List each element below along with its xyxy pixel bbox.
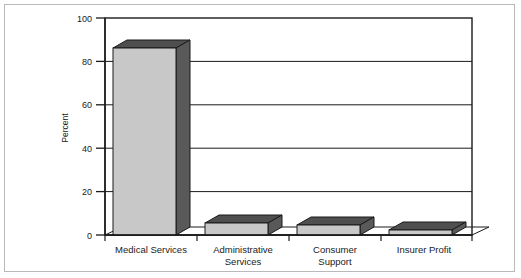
chart-svg: 100 80 60 40 20 0 Percent bbox=[0, 0, 521, 278]
bar-chart: 100 80 60 40 20 0 Percent bbox=[0, 0, 521, 278]
x-category-labels: Medical Services Administrative Services… bbox=[115, 244, 451, 267]
y-tick-label-100: 100 bbox=[77, 14, 92, 24]
cat-label-consumer-support-line1: Consumer bbox=[313, 244, 357, 255]
y-axis-title-text: Percent bbox=[60, 113, 70, 143]
chart-page: 100 80 60 40 20 0 Percent bbox=[0, 0, 521, 278]
y-tick-labels: 100 80 60 40 20 0 bbox=[77, 14, 92, 241]
y-axis-title: Percent bbox=[60, 113, 70, 143]
cat-label-consumer-support-line2: Support bbox=[318, 256, 352, 267]
bar-administrative-services[interactable] bbox=[205, 215, 282, 235]
y-axis bbox=[96, 18, 105, 235]
bar-consumer-support[interactable] bbox=[297, 217, 374, 235]
x-axis bbox=[105, 235, 472, 241]
cat-label-insurer-profit-line1: Insurer Profit bbox=[397, 244, 452, 255]
bar-medical-services[interactable] bbox=[113, 40, 190, 235]
y-tick-label-0: 0 bbox=[87, 231, 92, 241]
y-tick-label-40: 40 bbox=[82, 144, 92, 154]
y-tick-label-60: 60 bbox=[82, 100, 92, 110]
cat-label-administrative-services-line1: Administrative bbox=[213, 244, 273, 255]
y-tick-label-20: 20 bbox=[82, 187, 92, 197]
cat-label-medical-services-line1: Medical Services bbox=[115, 244, 187, 255]
cat-label-administrative-services-line2: Services bbox=[225, 256, 262, 267]
bar-insurer-profit[interactable] bbox=[389, 222, 466, 235]
y-tick-label-80: 80 bbox=[82, 57, 92, 67]
